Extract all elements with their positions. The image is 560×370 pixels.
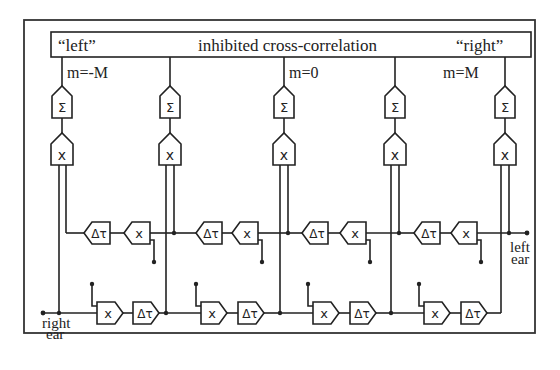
delay-icon: Δτ: [465, 307, 480, 321]
column-4: Σ x: [494, 57, 516, 313]
column-label-m-neg: m=-M: [67, 64, 108, 81]
header-right-label: “right”: [456, 36, 503, 55]
multiply-icon: x: [462, 226, 470, 241]
delay-icon: Δτ: [91, 227, 106, 241]
junction-dot: [286, 231, 290, 235]
cross-correlation-diagram: “left” inhibited cross-correlation “righ…: [0, 0, 560, 370]
column-2: Σ x: [273, 57, 295, 313]
multiply-icon: x: [135, 226, 143, 241]
inhibit-input-terminal: [479, 260, 483, 264]
multiply-icon: x: [58, 147, 66, 163]
junction-dot: [164, 311, 168, 315]
junction-dot: [278, 311, 282, 315]
left-ear-label: ear: [511, 251, 529, 267]
header-center-label: inhibited cross-correlation: [198, 36, 377, 55]
column-3: Σ x: [384, 57, 406, 313]
sigma-icon: Σ: [391, 100, 399, 115]
upper-delay-line: Δτ x Δτ x Δτ x Δτ x left ear: [66, 222, 531, 267]
multiply-icon: x: [208, 306, 216, 321]
junction-dot: [507, 231, 511, 235]
junction-dot: [172, 231, 176, 235]
delay-icon: Δτ: [354, 307, 369, 321]
inhibit-input-terminal: [194, 282, 198, 286]
inhibit-input-terminal: [152, 260, 156, 264]
column-1: Σ x: [159, 57, 181, 313]
inhibit-input-terminal: [260, 260, 264, 264]
delay-icon: Δτ: [242, 307, 257, 321]
delay-icon: Δτ: [203, 227, 218, 241]
multiply-icon: x: [243, 226, 251, 241]
multiply-icon: x: [166, 147, 174, 163]
delay-icon: Δτ: [309, 227, 324, 241]
delay-icon: Δτ: [421, 227, 436, 241]
sigma-icon: Σ: [280, 100, 288, 115]
junction-dot: [397, 231, 401, 235]
column-label-m-zero: m=0: [289, 64, 318, 81]
inhibit-input-terminal: [90, 282, 94, 286]
multiply-icon: x: [320, 306, 328, 321]
multiply-icon: x: [104, 306, 112, 321]
inhibit-input-terminal: [417, 282, 421, 286]
inhibit-input-terminal: [306, 282, 310, 286]
column-0: Σ x: [51, 57, 73, 313]
multiply-icon: x: [501, 147, 509, 163]
sigma-icon: Σ: [58, 100, 66, 115]
sigma-icon: Σ: [166, 100, 174, 115]
multiply-icon: x: [351, 226, 359, 241]
sigma-icon: Σ: [501, 100, 509, 115]
column-label-m-pos: m=M: [443, 64, 479, 81]
multiply-icon: x: [391, 147, 399, 163]
junction-dot: [389, 311, 393, 315]
right-ear-label: ear: [46, 326, 64, 342]
inhibit-input-terminal: [368, 260, 372, 264]
multiply-icon: x: [431, 306, 439, 321]
multiply-icon: x: [280, 147, 288, 163]
delay-icon: Δτ: [137, 307, 152, 321]
left-ear-input-terminal: [525, 231, 530, 236]
header-left-label: “left”: [58, 36, 96, 55]
